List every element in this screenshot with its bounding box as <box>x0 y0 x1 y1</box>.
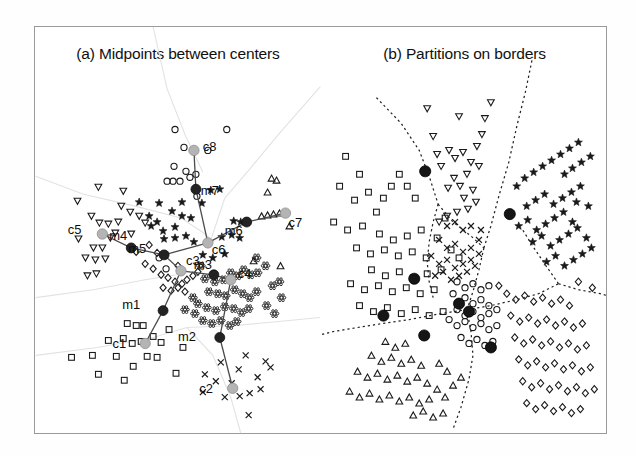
marker-square <box>390 237 396 243</box>
marker-circle <box>171 163 177 169</box>
center-node-c3[interactable] <box>176 266 186 276</box>
flower-petal <box>279 299 281 301</box>
flower-petal <box>258 274 260 276</box>
cluster-center-2[interactable] <box>504 209 515 220</box>
flower-petal <box>257 254 259 256</box>
marker-star <box>529 238 537 246</box>
flower-petal <box>216 312 218 314</box>
marker-cross <box>460 249 466 255</box>
flower-petal <box>209 306 211 308</box>
marker-cross <box>243 352 249 358</box>
marker-star <box>556 236 564 244</box>
flower-petal <box>192 315 194 317</box>
marker-circle <box>494 322 500 328</box>
flower-petal <box>214 322 216 324</box>
center-node-c1[interactable] <box>140 338 150 348</box>
marker-flower <box>211 307 220 315</box>
flower-petal <box>207 278 209 280</box>
marker-star <box>543 258 551 266</box>
marker-circle <box>177 178 183 184</box>
midpoint-node-m2[interactable] <box>215 332 225 342</box>
marker-triangle-down <box>88 213 95 219</box>
flower-core <box>255 290 258 293</box>
marker-star <box>153 218 161 226</box>
marker-star <box>572 198 580 206</box>
flower-petal <box>222 308 224 310</box>
flower-petal <box>261 265 263 267</box>
flower-petal <box>208 322 210 324</box>
marker-triangle-down <box>424 106 431 112</box>
midpoint-node-m6[interactable] <box>242 217 252 227</box>
cluster-center-6[interactable] <box>453 298 464 309</box>
marker-cross <box>247 390 253 396</box>
flower-petal <box>232 320 234 322</box>
marker-square <box>90 352 96 358</box>
marker-square <box>144 353 150 359</box>
center-node-c4[interactable] <box>226 275 236 285</box>
marker-circle <box>478 314 484 320</box>
cluster-center-5[interactable] <box>419 330 430 341</box>
marker-flower <box>262 302 271 310</box>
marker-cross <box>464 269 470 275</box>
center-node-c5[interactable] <box>97 229 107 239</box>
center-node-group: c1c2c3c4c5c6c7c8 <box>68 139 302 396</box>
flower-petal <box>218 317 220 319</box>
flower-petal <box>242 314 244 316</box>
flower-petal <box>218 290 220 292</box>
marker-square <box>360 223 366 229</box>
marker-square <box>352 197 358 203</box>
flower-petal <box>205 275 207 277</box>
flower-core <box>219 319 222 322</box>
marker-square <box>384 305 390 311</box>
flower-petal <box>243 290 245 292</box>
marker-triangle-up <box>436 360 443 366</box>
marker-cross <box>246 412 252 418</box>
center-node-c8[interactable] <box>189 145 199 155</box>
flower-petal <box>231 269 233 271</box>
marker-diamond <box>551 360 557 367</box>
marker-flower <box>270 310 279 318</box>
flower-petal <box>232 291 234 293</box>
marker-star <box>584 202 592 210</box>
marker-circle <box>470 324 476 330</box>
marker-circle <box>187 174 193 180</box>
marker-star <box>513 182 521 190</box>
center-node-c2[interactable] <box>228 383 238 393</box>
marker-square <box>105 338 111 344</box>
midpoint-node-m7[interactable] <box>191 184 201 194</box>
cluster-center-8[interactable] <box>485 342 496 353</box>
marker-star <box>521 174 529 182</box>
flower-petal <box>215 290 217 292</box>
flower-petal <box>279 294 281 296</box>
flower-petal <box>203 306 205 308</box>
flower-petal <box>254 293 256 295</box>
cluster-center-4[interactable] <box>378 310 389 321</box>
flower-petal <box>227 327 229 329</box>
marker-triangle-up <box>356 394 363 400</box>
marker-triangle-down <box>95 184 102 190</box>
cluster-center-3[interactable] <box>409 273 420 284</box>
marker-triangle-up <box>442 394 449 400</box>
flower-petal <box>211 290 213 292</box>
marker-circle <box>224 126 230 132</box>
marker-diamond <box>160 284 166 291</box>
marker-triangle-down <box>444 213 451 219</box>
midpoint-node-m5[interactable] <box>159 250 169 260</box>
flower-petal <box>267 265 269 267</box>
marker-square <box>371 309 377 315</box>
midpoint-node-m1[interactable] <box>158 306 168 316</box>
marker-circle <box>486 326 492 332</box>
marker-triangle-down <box>456 114 463 120</box>
flower-petal <box>234 318 236 320</box>
marker-star <box>182 232 190 240</box>
cluster-center-7[interactable] <box>463 306 474 317</box>
marker-star <box>586 152 594 160</box>
cluster-center-1[interactable] <box>420 166 431 177</box>
marker-triangle-up <box>386 392 393 398</box>
marker-circle <box>494 307 500 313</box>
marker-star <box>551 214 559 222</box>
marker-square <box>357 171 363 177</box>
marker-group-square <box>331 153 462 318</box>
flower-petal <box>259 272 261 274</box>
flower-petal <box>201 278 203 280</box>
